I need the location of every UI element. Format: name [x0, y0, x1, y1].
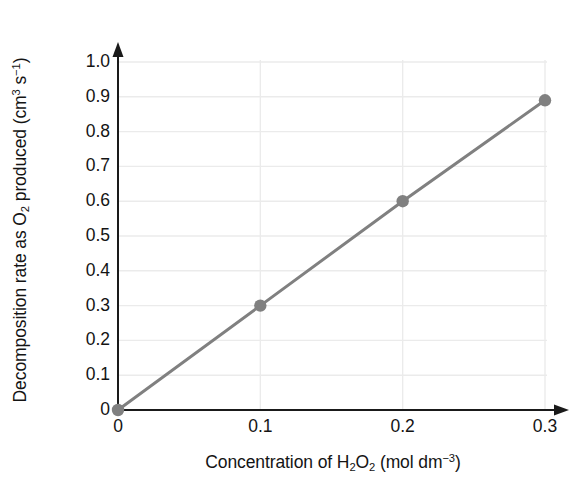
data-point-marker[interactable]: [254, 299, 266, 311]
data-point-marker[interactable]: [539, 94, 551, 106]
y-axis-arrowhead: [113, 42, 124, 57]
data-point-marker[interactable]: [396, 195, 408, 207]
plot-area: [0, 0, 586, 493]
series-line: [118, 100, 545, 410]
chart-container: Decomposition rate as O2 produced (cm3 s…: [0, 0, 586, 493]
x-axis-arrowhead: [554, 405, 569, 416]
data-point-marker[interactable]: [112, 404, 124, 416]
